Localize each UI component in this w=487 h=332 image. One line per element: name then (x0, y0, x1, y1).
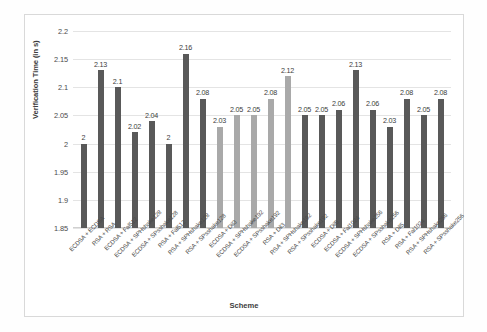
bar: 2 (81, 144, 87, 228)
bar-slot: 2.12 (279, 31, 296, 228)
bar-value-label: 2.08 (434, 88, 447, 97)
x-label-slot: ECDSA + SPsshake256 (364, 229, 381, 309)
bar: 2.12 (285, 76, 291, 228)
bar: 2.05 (234, 115, 240, 228)
bar: 2.1 (115, 87, 121, 228)
bar-slot: 2.08 (262, 31, 279, 228)
bar-slot: 2.06 (330, 31, 347, 228)
bar: 2.06 (336, 110, 342, 228)
bar: 2.16 (183, 54, 189, 228)
y-axis-tick-label: 2.05 (54, 111, 68, 120)
y-axis-tick-label: 1.9 (58, 195, 68, 204)
bar: 2.06 (370, 110, 376, 228)
y-axis-tick-label: 2.2 (58, 27, 68, 36)
bar: 2.08 (438, 99, 444, 228)
bar-slot: 2.06 (364, 31, 381, 228)
bar-value-label: 2.02 (128, 122, 141, 131)
bar: 2.13 (353, 70, 359, 228)
bar-value-label: 2.05 (315, 105, 328, 114)
x-axis-title: Scheme (25, 301, 463, 310)
bar-series: 22.132.12.022.0422.162.082.032.052.052.0… (73, 31, 451, 228)
bar-slot: 2.13 (347, 31, 364, 228)
y-axis-title: Verification Time (in s) (31, 41, 40, 119)
y-axis-tick-label: 1.85 (54, 224, 68, 233)
bar-value-label: 2.13 (94, 60, 107, 69)
bar-value-label: 2 (167, 133, 171, 142)
bar-slot: 2.04 (143, 31, 160, 228)
bar-slot: 2.05 (245, 31, 262, 228)
bar-slot: 2.08 (398, 31, 415, 228)
bar: 2.02 (132, 132, 138, 228)
x-label-slot: RSA + SPsshake256 (432, 229, 449, 309)
bar-value-label: 2.06 (366, 99, 379, 108)
bar-value-label: 2.03 (213, 116, 226, 125)
bar-slot: 2.02 (126, 31, 143, 228)
bar-slot: 2.05 (313, 31, 330, 228)
bar-value-label: 2.03 (383, 116, 396, 125)
bar-slot: 2.03 (381, 31, 398, 228)
bar-value-label: 2.04 (145, 111, 158, 120)
y-axis-tick-label: 2.15 (54, 55, 68, 64)
bar-value-label: 2 (82, 133, 86, 142)
bar: 2.08 (268, 99, 274, 228)
bar-slot: 2.16 (177, 31, 194, 228)
bar-value-label: 2.05 (230, 105, 243, 114)
bar-value-label: 2.05 (247, 105, 260, 114)
y-axis-tick-label: 1.95 (54, 167, 68, 176)
chart-frame: Verification Time (in s) 1.851.91.9522.0… (24, 14, 464, 317)
bar-value-label: 2.05 (298, 105, 311, 114)
bar-value-label: 2.16 (179, 43, 192, 52)
bar-slot: 2.05 (296, 31, 313, 228)
bar-value-label: 2.06 (332, 99, 345, 108)
bar: 2.05 (421, 115, 427, 228)
bar-value-label: 2.13 (349, 60, 362, 69)
bar-value-label: 2.1 (113, 77, 122, 86)
bar-slot: 2 (75, 31, 92, 228)
bar: 2.08 (404, 99, 410, 228)
y-axis-tick-label: 2.1 (58, 83, 68, 92)
bar-slot: 2.03 (211, 31, 228, 228)
bar-slot: 2 (160, 31, 177, 228)
bar-slot: 2.13 (92, 31, 109, 228)
bar-value-label: 2.08 (400, 88, 413, 97)
bar-value-label: 2.08 (196, 88, 209, 97)
y-axis-tick-label: 2 (64, 139, 68, 148)
x-label-slot: ECDSA + SPsshake192 (245, 229, 262, 309)
bar-slot: 2.05 (415, 31, 432, 228)
bar: 2.13 (98, 70, 104, 228)
bar-value-label: 2.08 (264, 88, 277, 97)
bar-slot: 2.1 (109, 31, 126, 228)
bar-slot: 2.08 (194, 31, 211, 228)
x-axis-tick-labels: ECDSA + ECDSARSA + RSAECDSA + Fal512ECDS… (73, 229, 451, 309)
bar-slot: 2.08 (432, 31, 449, 228)
chart-page: Verification Time (in s) 1.851.91.9522.0… (0, 0, 487, 332)
bar-slot: 2.05 (228, 31, 245, 228)
bar-value-label: 2.05 (417, 105, 430, 114)
plot-area: 1.851.91.9522.052.12.152.2 22.132.12.022… (73, 31, 451, 228)
bar: 2.08 (200, 99, 206, 228)
bar-value-label: 2.12 (281, 66, 294, 75)
